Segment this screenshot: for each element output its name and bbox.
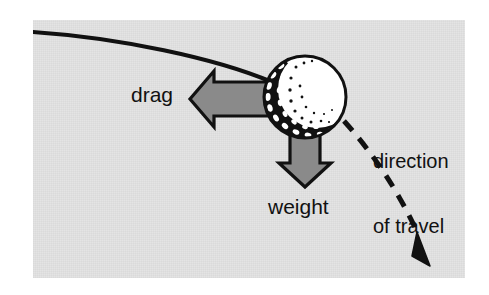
golf-ball (264, 50, 356, 138)
figure-root: drag weight direction of travel (0, 0, 489, 295)
weight-label: weight (268, 196, 329, 219)
direction-of-travel-label: direction of travel (373, 108, 449, 281)
direction-of-travel-line-1: direction (373, 151, 449, 173)
direction-of-travel-line-2: of travel (373, 216, 449, 238)
incoming-trajectory-line (33, 32, 272, 82)
drag-label: drag (131, 84, 173, 107)
